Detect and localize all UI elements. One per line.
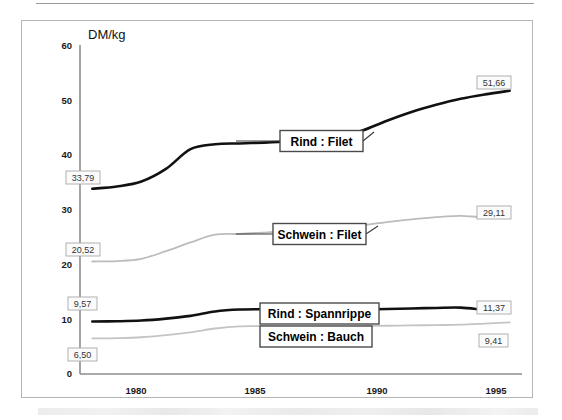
x-tick-label: 1990 bbox=[366, 385, 387, 396]
callout-rind-filet: Rind : Filet bbox=[236, 131, 374, 152]
callout-schwein-filet: Schwein : Filet bbox=[236, 224, 378, 245]
callout-leader bbox=[366, 226, 378, 234]
value-label: 20,52 bbox=[72, 245, 95, 255]
callout-leader bbox=[363, 132, 374, 141]
series-label: Schwein : Filet bbox=[277, 228, 361, 242]
value-label: 11,37 bbox=[483, 303, 505, 313]
y-tick-label: 50 bbox=[61, 95, 72, 106]
value-label: 9,57 bbox=[74, 299, 92, 309]
series-label: Rind : Filet bbox=[291, 135, 353, 149]
value-label-schwein-filet-start: 20,52 bbox=[66, 243, 100, 256]
callout-rind-spannrippe: Rind : Spannrippe bbox=[260, 303, 379, 324]
x-tick-label: 1995 bbox=[485, 385, 507, 396]
value-label: 9,41 bbox=[485, 336, 503, 346]
value-label-rind-filet-end: 51,66 bbox=[477, 76, 511, 89]
y-tick-label: 40 bbox=[61, 149, 72, 160]
value-label: 51,66 bbox=[483, 78, 506, 88]
chart-frame: 60 50 40 30 20 10 0 1980 1985 1990 1995 … bbox=[21, 20, 533, 398]
value-label: 33,79 bbox=[72, 173, 95, 183]
y-tick-label: 30 bbox=[61, 204, 72, 215]
value-label-schwein-bauch-end: 9,41 bbox=[479, 334, 508, 347]
x-tick-label: 1985 bbox=[244, 385, 266, 396]
x-tick-label: 1980 bbox=[125, 385, 146, 396]
y-axis-unit-label: DM/kg bbox=[88, 27, 126, 42]
value-label-rind-filet-start: 33,79 bbox=[66, 171, 100, 184]
y-tick-label: 20 bbox=[61, 259, 72, 270]
y-tick-label: 60 bbox=[61, 40, 72, 51]
page-top-rule bbox=[36, 3, 534, 4]
value-label: 29,11 bbox=[483, 208, 505, 218]
series-label: Rind : Spannrippe bbox=[268, 307, 372, 321]
series-label: Schwein : Bauch bbox=[268, 330, 364, 344]
x-tick-labels: 1980 1985 1990 1995 bbox=[125, 385, 507, 396]
y-tick-label: 0 bbox=[67, 368, 72, 379]
line-chart: 60 50 40 30 20 10 0 1980 1985 1990 1995 … bbox=[22, 21, 532, 397]
value-label-schwein-filet-end: 29,11 bbox=[477, 206, 511, 219]
y-tick-label: 10 bbox=[61, 314, 72, 325]
value-label-rind-spannrippe-end: 11,37 bbox=[477, 301, 511, 314]
value-label-schwein-bauch-start: 6,50 bbox=[68, 348, 97, 361]
y-tick-labels: 60 50 40 30 20 10 0 bbox=[61, 40, 72, 379]
callout-schwein-bauch: Schwein : Bauch bbox=[260, 326, 372, 347]
page-footer-texture bbox=[38, 408, 538, 415]
value-label-rind-spannrippe-start: 9,57 bbox=[68, 297, 97, 310]
series-lines bbox=[92, 91, 509, 339]
value-label: 6,50 bbox=[74, 350, 92, 360]
